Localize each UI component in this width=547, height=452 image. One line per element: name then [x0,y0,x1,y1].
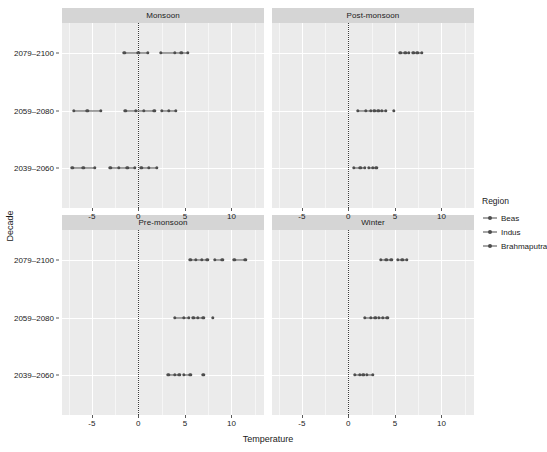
x-tick-mark [441,415,442,418]
legend-item-label: Brahmaputra [501,242,547,251]
x-tick-mark [231,208,232,211]
data-point [178,373,181,376]
data-point [364,109,367,112]
data-point [202,373,205,376]
legend-title: Region [482,196,544,206]
data-point [363,316,366,319]
y-tick-label: 2039–2060 [14,371,54,380]
data-point [173,316,176,319]
x-axis: -50510 [62,208,264,226]
gridline-minor-x [162,23,163,208]
x-tick-mark [92,415,93,418]
gridline-minor-x [69,23,70,208]
data-point [407,51,410,54]
gridline-major-x [441,230,442,415]
x-tick-label: 10 [227,419,236,428]
facet-strip-label: Monsoon [62,8,264,23]
data-point [142,109,145,112]
gridline-minor-x [325,23,326,208]
data-point [200,258,203,261]
gridline-minor-x [465,23,466,208]
data-point [194,258,197,261]
y-tick-label: 2059–2080 [14,313,54,322]
legend-key-icon [482,240,498,252]
zero-reference-line [138,230,139,415]
x-axis: -50510 [62,415,264,433]
gridline-major-x [231,23,232,208]
data-point [139,166,142,169]
facet-panel-post-monsoon: Post-monsoon [272,8,474,208]
data-point [396,258,399,261]
data-point [352,166,355,169]
plot-panel [272,23,474,208]
data-point [82,166,85,169]
data-point [359,166,362,169]
legend-items: BeasIndusBrahmaputra [482,211,544,253]
data-point [72,109,75,112]
data-point [220,258,223,261]
facet-panel-winter: Winter [272,215,474,415]
x-tick-label: 5 [183,419,187,428]
data-point [124,109,127,112]
x-tick-mark [231,415,232,418]
legend-item[interactable]: Indus [482,225,544,239]
gridline-major-y [272,53,474,54]
x-tick-mark [92,208,93,211]
facet-grid: MonsoonPost-monsoonPre-monsoonWinter-505… [62,8,474,418]
x-tick-mark [395,415,396,418]
y-tick-mark [56,168,59,169]
y-tick-label: 2039–2060 [14,164,54,173]
data-point [211,316,214,319]
x-tick-mark [138,208,139,211]
x-tick-label: 0 [136,419,140,428]
legend-key-icon [482,212,498,224]
data-point [99,109,102,112]
data-point [160,109,163,112]
data-point [71,166,74,169]
gridline-minor-x [418,23,419,208]
gridline-minor-x [465,230,466,415]
data-point [356,109,359,112]
data-point [179,51,182,54]
y-tick-label: 2079–2100 [14,49,54,58]
data-point [152,109,155,112]
legend-item[interactable]: Brahmaputra [482,239,544,253]
data-point [384,109,387,112]
gridline-minor-x [115,23,116,208]
data-point [192,316,195,319]
x-tick-label: 10 [227,212,236,221]
x-tick-label: 0 [346,419,350,428]
gridline-minor-x [208,230,209,415]
y-tick-mark [56,53,59,54]
y-axis: 2079–21002059–20802039–2060 [0,23,60,208]
data-point [196,316,199,319]
x-tick-label: 0 [136,212,140,221]
gridline-minor-x [279,230,280,415]
x-tick-mark [441,208,442,211]
data-point [166,373,169,376]
data-point [125,166,128,169]
x-tick-label: 10 [437,212,446,221]
data-point [187,316,190,319]
y-tick-label: 2079–2100 [14,256,54,265]
data-point [401,258,404,261]
gridline-minor-x [279,23,280,208]
facet-strip-label: Post-monsoon [272,8,474,23]
zero-reference-line [348,230,349,415]
plot-panel [272,230,474,415]
legend-item[interactable]: Beas [482,211,544,225]
y-tick-mark [56,375,59,376]
facet-panel-pre-monsoon: Pre-monsoon [62,215,264,415]
gridline-major-x [441,23,442,208]
x-tick-label: -5 [88,212,95,221]
x-tick-mark [348,208,349,211]
gridline-minor-x [255,230,256,415]
data-point [213,258,216,261]
data-point [233,258,236,261]
data-point [155,166,158,169]
gridline-minor-x [325,230,326,415]
x-tick-mark [185,415,186,418]
x-tick-label: -5 [298,419,305,428]
data-point [174,109,177,112]
